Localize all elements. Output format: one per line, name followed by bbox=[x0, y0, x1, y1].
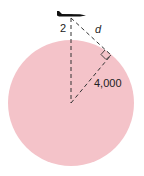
diagram-canvas bbox=[0, 0, 144, 176]
line-of-sight-label: d bbox=[95, 24, 101, 35]
altitude-label: 2 bbox=[60, 23, 66, 34]
planet-tangent-diagram: 2 d 4,000 bbox=[0, 0, 144, 176]
airplane-icon bbox=[57, 11, 86, 17]
radius-label: 4,000 bbox=[94, 78, 122, 89]
